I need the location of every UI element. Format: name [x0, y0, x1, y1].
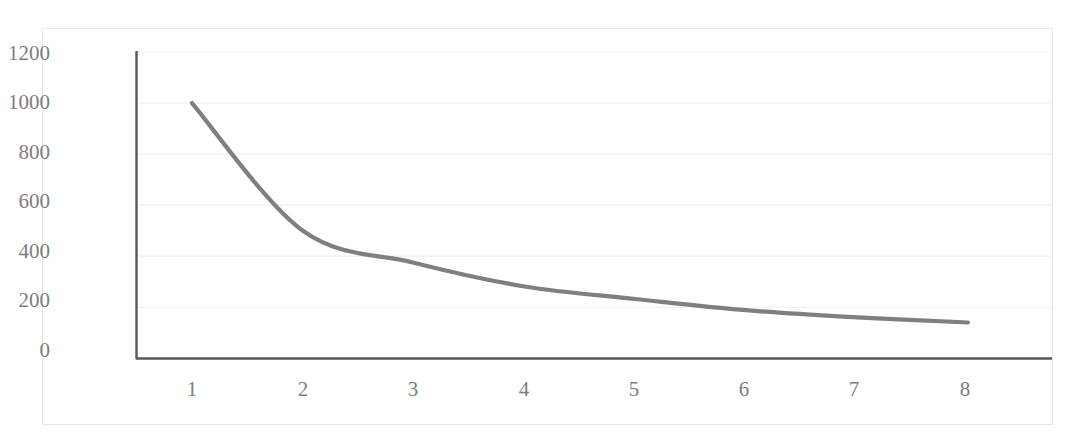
x-tick-label-2: 2	[283, 379, 323, 400]
x-tick-label-3: 3	[393, 379, 433, 400]
gridlines-group	[137, 52, 1053, 307]
x-tick-label-5: 5	[614, 379, 654, 400]
data-series-group	[192, 103, 968, 322]
x-tick-label-7: 7	[834, 379, 874, 400]
chart-container: 1200 1000 800 600 400 200 0 1 2 3 4 5 6 …	[0, 0, 1087, 446]
x-tick-label-6: 6	[724, 379, 764, 400]
y-tick-label-400: 400	[0, 241, 50, 262]
y-tick-label-0: 0	[0, 340, 50, 361]
x-tick-label-1: 1	[172, 379, 212, 400]
y-tick-label-1000: 1000	[0, 92, 50, 113]
y-tick-label-200: 200	[0, 290, 50, 311]
y-tick-label-600: 600	[0, 191, 50, 212]
x-tick-label-8: 8	[945, 379, 985, 400]
y-tick-label-1200: 1200	[0, 43, 50, 64]
chart-graphic	[43, 29, 1052, 424]
y-tick-label-800: 800	[0, 142, 50, 163]
data-line-series-1	[192, 103, 968, 322]
chart-plot-frame: 1200 1000 800 600 400 200 0 1 2 3 4 5 6 …	[42, 28, 1053, 425]
x-tick-label-4: 4	[504, 379, 544, 400]
